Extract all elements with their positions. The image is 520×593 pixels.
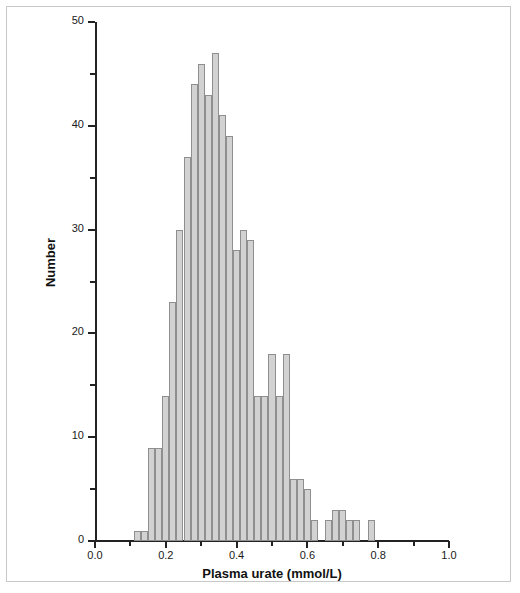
y-axis-tick — [88, 125, 95, 127]
histogram-bar — [134, 531, 141, 541]
histogram-bar — [191, 84, 198, 541]
x-axis-title: Plasma urate (mmol/L) — [95, 566, 449, 581]
x-axis-tick — [94, 541, 96, 548]
histogram-bar — [339, 510, 346, 541]
histogram-bar — [290, 479, 297, 541]
y-axis-tick-label: 30 — [54, 222, 84, 234]
x-axis-tick — [306, 541, 308, 548]
y-axis-minor-tick — [90, 73, 95, 75]
x-axis-minor-tick — [271, 541, 273, 546]
y-axis-tick — [88, 21, 95, 23]
y-axis-tick — [88, 229, 95, 231]
histogram-bar — [233, 250, 240, 541]
histogram-bar — [205, 95, 212, 541]
x-axis-tick-label: 0.4 — [217, 549, 257, 561]
y-axis-title: Number — [43, 203, 58, 323]
y-axis-tick — [88, 436, 95, 438]
histogram-bar — [304, 489, 311, 541]
histogram-bar — [254, 396, 261, 541]
histogram-bar — [240, 230, 247, 541]
histogram-bar — [198, 64, 205, 541]
histogram-bar — [219, 115, 226, 541]
x-axis-tick — [236, 541, 238, 548]
x-axis-tick-label: 0.2 — [146, 549, 186, 561]
y-axis-tick-label: 0 — [54, 533, 84, 545]
x-axis-tick-label: 0.6 — [287, 549, 327, 561]
x-axis-tick-label: 0.8 — [358, 549, 398, 561]
histogram-bar — [368, 520, 375, 541]
y-axis-tick — [88, 332, 95, 334]
x-axis-tick — [448, 541, 450, 548]
histogram-bar — [311, 520, 318, 541]
histogram-bar — [226, 136, 233, 541]
histogram-bar — [276, 396, 283, 541]
y-axis-line — [95, 22, 97, 541]
histogram-bar — [325, 520, 332, 541]
histogram-bar — [162, 396, 169, 541]
x-axis-tick-label: 1.0 — [429, 549, 469, 561]
histogram-bar — [212, 53, 219, 541]
x-axis-minor-tick — [413, 541, 415, 546]
histogram-bar — [268, 354, 275, 541]
histogram-bar — [353, 520, 360, 541]
y-axis-tick-label: 20 — [54, 325, 84, 337]
histogram-bar — [332, 510, 339, 541]
x-axis-tick — [377, 541, 379, 548]
histogram-bar — [176, 230, 183, 541]
histogram-bar — [247, 240, 254, 541]
histogram-bar — [148, 448, 155, 541]
x-axis-minor-tick — [342, 541, 344, 546]
histogram-bar — [297, 479, 304, 541]
x-axis-tick — [165, 541, 167, 548]
histogram-bar — [169, 302, 176, 541]
histogram-bar — [155, 448, 162, 541]
y-axis-tick-label: 40 — [54, 118, 84, 130]
figure-container: 010203040500.00.20.40.60.81.0 Number Pla… — [0, 0, 520, 593]
histogram-bar — [261, 396, 268, 541]
histogram-bar — [184, 157, 191, 541]
histogram-bar — [141, 531, 148, 541]
x-axis-tick-label: 0.0 — [75, 549, 115, 561]
y-axis-minor-tick — [90, 384, 95, 386]
y-axis-minor-tick — [90, 177, 95, 179]
x-axis-minor-tick — [129, 541, 131, 546]
y-axis-minor-tick — [90, 488, 95, 490]
y-axis-minor-tick — [90, 281, 95, 283]
plot-area: 010203040500.00.20.40.60.81.0 — [0, 0, 520, 593]
y-axis-tick-label: 50 — [54, 14, 84, 26]
y-axis-tick-label: 10 — [54, 429, 84, 441]
histogram-bar — [283, 354, 290, 541]
histogram-bar — [346, 520, 353, 541]
x-axis-minor-tick — [200, 541, 202, 546]
